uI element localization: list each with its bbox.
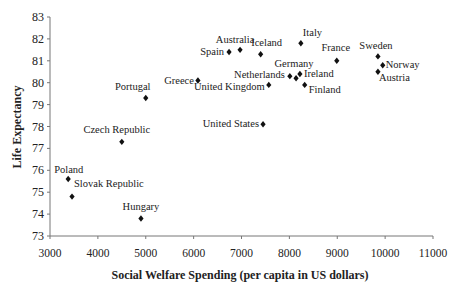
diamond-marker-icon [298, 40, 303, 46]
data-point: Ireland [297, 68, 334, 79]
diamond-marker-icon [302, 82, 307, 88]
scatter-chart: 7374757677787980818283300040005000600070… [0, 0, 459, 292]
diamond-marker-icon [266, 82, 271, 88]
data-point: Norway [380, 59, 420, 70]
point-label: Greece [164, 75, 194, 86]
x-tick-label: 3000 [39, 247, 62, 259]
diamond-marker-icon [138, 215, 143, 221]
diamond-marker-icon [143, 95, 148, 101]
data-point: Italy [298, 27, 323, 46]
diamond-marker-icon [293, 75, 298, 81]
data-point: Spain [200, 46, 232, 57]
point-label: Netherlands [234, 69, 285, 80]
y-tick-label: 76 [32, 163, 44, 177]
diamond-marker-icon [260, 121, 265, 127]
point-label: Iceland [251, 37, 283, 48]
data-point: Hungary [123, 201, 160, 221]
diamond-marker-icon [287, 73, 292, 79]
diamond-marker-icon [297, 71, 302, 77]
data-point: United States [203, 118, 266, 129]
x-tick-label: 11000 [419, 247, 448, 259]
point-label: Austria [379, 72, 410, 83]
y-axis-label: Life Expectancy [10, 86, 24, 169]
y-tick-label: 81 [32, 54, 44, 68]
y-tick-label: 79 [32, 98, 44, 112]
x-tick-label: 8000 [278, 247, 301, 259]
data-point: Austria [375, 69, 410, 83]
point-label: Ireland [304, 68, 334, 79]
data-point: Sweden [359, 40, 393, 59]
y-tick-label: 73 [32, 229, 44, 243]
y-tick-label: 80 [32, 76, 44, 90]
y-tick-label: 77 [32, 141, 44, 155]
diamond-marker-icon [66, 176, 71, 182]
data-point: Portugal [115, 81, 151, 101]
y-tick-label: 75 [32, 185, 44, 199]
y-tick-label: 78 [32, 120, 44, 134]
y-tick-label: 82 [32, 32, 44, 46]
x-tick-label: 7000 [230, 247, 253, 259]
diamond-marker-icon [375, 53, 380, 59]
x-tick-label: 10000 [371, 247, 400, 259]
x-tick-label: 9000 [326, 247, 349, 259]
data-point: Netherlands [234, 69, 292, 80]
point-label: Czech Republic [83, 124, 150, 135]
point-label: Poland [54, 164, 84, 175]
diamond-marker-icon [334, 58, 339, 64]
y-tick-label: 83 [32, 10, 44, 24]
point-label: Hungary [123, 201, 160, 212]
diamond-marker-icon [226, 49, 231, 55]
data-point: France [321, 42, 350, 64]
point-label: United Kingdom [194, 81, 265, 92]
data-points: PolandSlovak RepublicHungaryCzech Republ… [54, 27, 420, 221]
point-label: Portugal [115, 81, 151, 92]
diamond-marker-icon [258, 51, 263, 57]
x-axis-label: Social Welfare Spending (per capita in U… [111, 268, 368, 282]
diamond-marker-icon [237, 47, 242, 53]
data-point: Finland [302, 82, 341, 95]
point-label: Slovak Republic [74, 178, 144, 189]
point-label: Australia [216, 34, 255, 45]
data-point: Czech Republic [83, 124, 150, 145]
y-tick-label: 74 [32, 207, 44, 221]
point-label: France [321, 42, 350, 53]
diamond-marker-icon [69, 193, 74, 199]
data-point: United Kingdom [194, 81, 271, 92]
point-label: United States [203, 118, 259, 129]
x-tick-label: 5000 [134, 247, 157, 259]
point-label: Norway [386, 59, 421, 70]
x-tick-label: 4000 [86, 247, 109, 259]
point-label: Italy [303, 27, 323, 38]
point-label: Spain [200, 46, 225, 57]
point-label: Sweden [359, 40, 393, 51]
data-point: Slovak Republic [69, 178, 144, 200]
data-point: Iceland [251, 37, 283, 57]
diamond-marker-icon [119, 139, 124, 145]
point-label: Finland [309, 84, 342, 95]
diamond-marker-icon [380, 62, 385, 68]
x-tick-label: 6000 [182, 247, 205, 259]
